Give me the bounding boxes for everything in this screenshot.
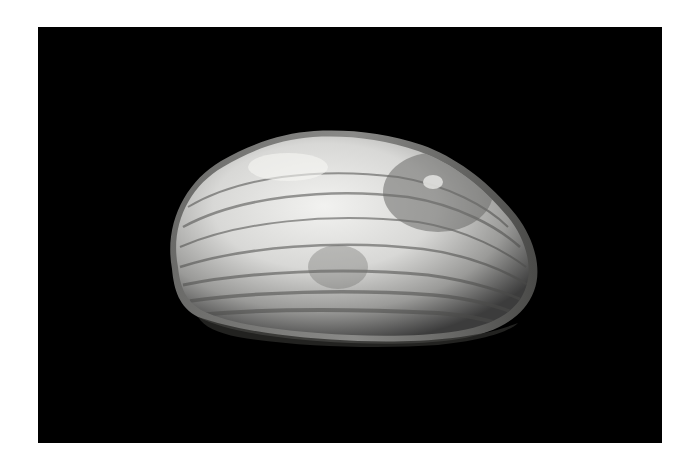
shell-body xyxy=(176,137,529,336)
photo-frame xyxy=(38,27,662,443)
shell-photo xyxy=(38,27,662,443)
